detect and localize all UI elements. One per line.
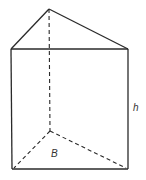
prism-diagram: h B: [0, 0, 146, 180]
top-edge-right: [49, 9, 128, 49]
top-edge-left: [11, 9, 49, 49]
hidden-base-edge-left: [14, 131, 50, 168]
height-label: h: [133, 102, 139, 113]
base-label: B: [51, 148, 58, 159]
hidden-base-edge-right: [50, 131, 126, 168]
hidden-back-vertical-edge: [49, 9, 50, 131]
left-vertical-edge: [11, 49, 12, 169]
